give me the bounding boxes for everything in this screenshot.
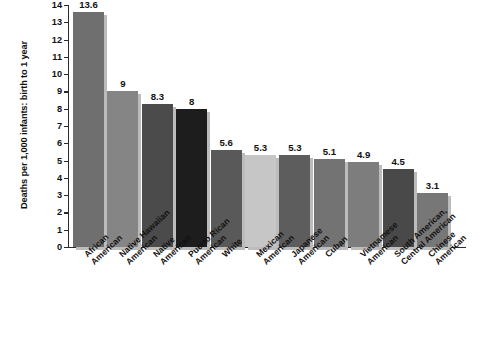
bar-fill [245,155,276,247]
y-tick-mark [64,57,69,58]
y-tick-mark [64,161,69,162]
y-tick-mark [64,109,69,110]
bar-fill [348,162,379,247]
bar: 5.3 [245,155,276,247]
bar-fill [107,91,138,247]
y-tick-label: 0 [57,242,62,252]
y-tick-mark [64,247,69,248]
y-tick-label: 7 [57,121,62,131]
y-tick-label: 3 [57,190,62,200]
bar-value-label: 5.3 [288,142,301,153]
y-tick-label: 12 [52,35,62,45]
plot-area: 01234567891011121314 13.698.385.65.35.35… [68,5,468,248]
y-tick-label: 14 [52,0,62,10]
y-axis-title: Deaths per 1,000 infants: birth to 1 yea… [19,15,29,235]
y-tick-mark [64,230,69,231]
bar-value-label: 5.1 [323,146,336,157]
bar-value-label: 4.5 [391,156,404,167]
y-tick-label: 10 [52,69,62,79]
bar-value-label: 8 [189,96,194,107]
y-tick-label: 5 [57,156,62,166]
bar: 4.9 [348,162,379,247]
y-tick-mark [64,40,69,41]
bar-value-label: 13.6 [79,0,98,10]
bar-value-label: 9 [120,78,125,89]
bar-value-label: 5.6 [219,137,232,148]
y-tick-label: 2 [57,207,62,217]
y-tick-mark [64,126,69,127]
y-tick-label: 9 [57,86,62,96]
y-tick-mark [64,178,69,179]
y-tick-label: 8 [57,104,62,114]
y-tick-label: 4 [57,173,62,183]
y-tick-mark [64,5,69,6]
y-tick-mark [64,22,69,23]
bar: 13.6 [73,12,104,247]
bar-value-label: 4.9 [357,149,370,160]
y-tick-mark [64,195,69,196]
bar: 9 [107,91,138,247]
bar-value-label: 8.3 [151,91,164,102]
y-tick-mark [64,212,69,213]
y-tick-mark [64,91,69,92]
bar-chart: Deaths per 1,000 infants: birth to 1 yea… [0,0,486,341]
y-tick-label: 13 [52,17,62,27]
y-tick-label: 6 [57,138,62,148]
bar-value-label: 3.1 [426,180,439,191]
y-tick-label: 11 [52,52,62,62]
bar-value-label: 5.3 [254,142,267,153]
y-tick-mark [64,143,69,144]
bar-fill [73,12,104,247]
y-tick-mark [64,74,69,75]
y-tick-label: 1 [57,225,62,235]
